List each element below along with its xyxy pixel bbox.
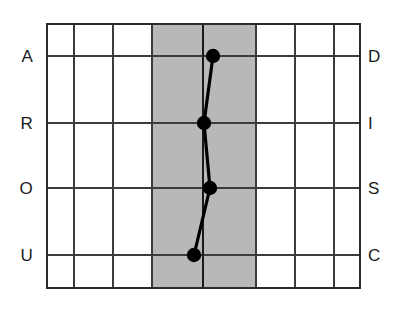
right-axis-label-S: S: [368, 180, 380, 197]
data-point-C[interactable]: [187, 248, 201, 262]
right-axis-label-I: I: [368, 115, 373, 132]
data-point-I[interactable]: [197, 116, 211, 130]
right-axis-label-C: C: [368, 247, 380, 264]
disc-profile-chart: AROU DISC: [0, 0, 396, 315]
data-point-D[interactable]: [206, 49, 220, 63]
left-axis-label-O: O: [20, 180, 33, 197]
right-axis-label-D: D: [368, 48, 380, 65]
chart-plot-area: [0, 0, 396, 315]
left-axis-label-R: R: [21, 115, 33, 132]
data-point-S[interactable]: [203, 181, 217, 195]
left-axis-label-U: U: [21, 247, 33, 264]
left-axis-label-A: A: [21, 48, 33, 65]
